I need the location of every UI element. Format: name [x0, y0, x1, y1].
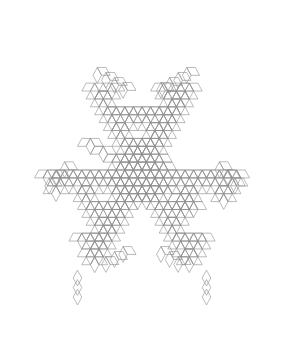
fractal-figure: Rhombus Fractal Snowflake: [0, 0, 284, 339]
